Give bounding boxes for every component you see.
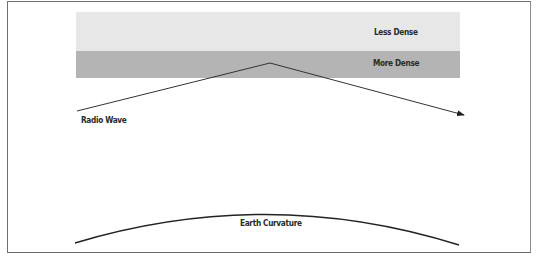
radio-wave-label: Radio Wave (81, 115, 127, 125)
radio-wave-path (77, 63, 464, 115)
earth-curvature-label: Earth Curvature (240, 218, 302, 228)
